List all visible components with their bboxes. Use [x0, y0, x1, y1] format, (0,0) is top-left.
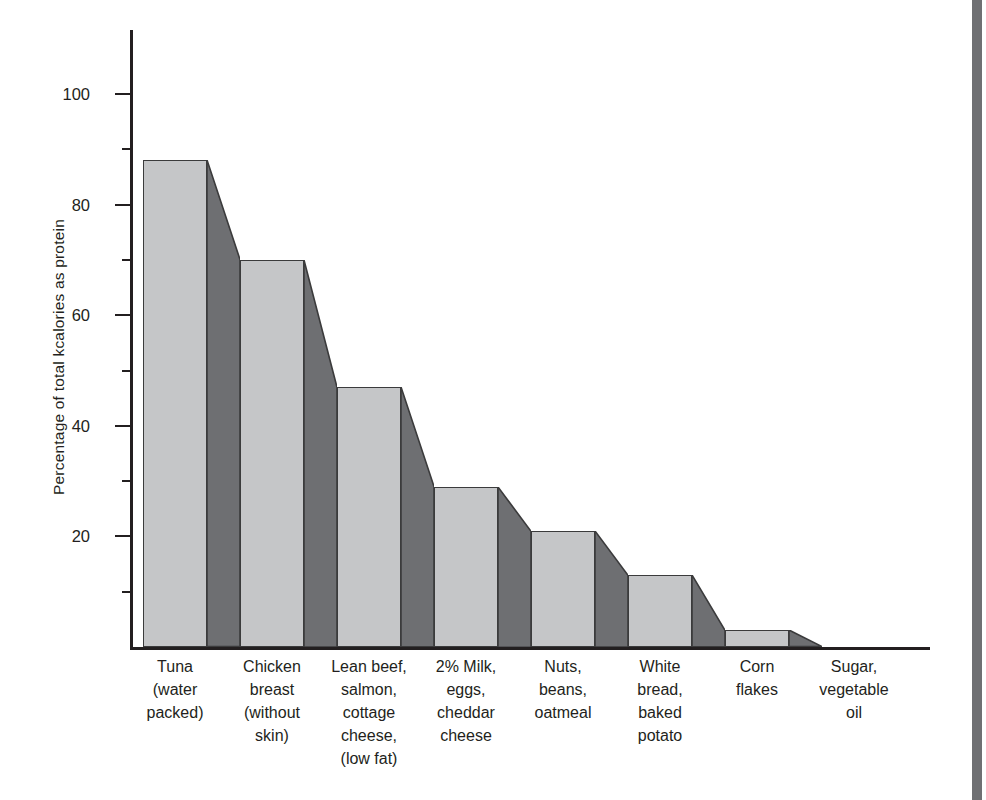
x-axis-label-line: beans,: [508, 678, 618, 701]
y-tick-label-100: 100: [62, 85, 90, 104]
x-axis-label-line: cottage: [314, 701, 424, 724]
x-axis-label-0: Tuna(waterpacked): [120, 655, 230, 724]
x-axis-label-line: Sugar,: [799, 655, 909, 678]
y-tick-major-60: 60: [115, 314, 133, 316]
bar-side-face: [595, 531, 628, 647]
y-tick-minor-30: [122, 480, 133, 482]
bar-side-face: [789, 630, 822, 647]
x-axis-label-2: Lean beef,salmon,cottagecheese,(low fat): [314, 655, 424, 770]
x-axis-label-line: cheese: [411, 724, 521, 747]
y-axis-title: Percentage of total kcalories as protein: [50, 147, 68, 567]
x-axis-label-line: White: [605, 655, 715, 678]
x-axis-label-1: Chickenbreast(withoutskin): [217, 655, 327, 747]
x-axis-label-line: Lean beef,: [314, 655, 424, 678]
x-axis-label-line: flakes: [702, 678, 812, 701]
y-axis-line: [130, 30, 133, 650]
x-axis-label-5: Whitebread,bakedpotato: [605, 655, 715, 747]
bar-front-face: [240, 260, 304, 647]
y-tick-label-40: 40: [72, 416, 90, 435]
bar-front-face: [725, 630, 789, 647]
x-axis-label-line: vegetable: [799, 678, 909, 701]
x-axis-label-line: potato: [605, 724, 715, 747]
bar-front-face: [143, 160, 207, 647]
x-axis-label-line: bread,: [605, 678, 715, 701]
page-edge-strip: [972, 0, 982, 800]
x-axis-label-line: oatmeal: [508, 701, 618, 724]
y-tick-label-80: 80: [72, 195, 90, 214]
x-axis-label-line: eggs,: [411, 678, 521, 701]
x-axis-label-4: Nuts,beans,oatmeal: [508, 655, 618, 724]
x-axis-label-line: Tuna: [120, 655, 230, 678]
bar-side-face: [498, 487, 531, 647]
bar-side-face: [401, 387, 434, 647]
bar-front-face: [434, 487, 498, 647]
y-tick-minor-70: [122, 259, 133, 261]
x-axis-label-line: skin): [217, 724, 327, 747]
bar-front-face: [628, 575, 692, 647]
chart-page: Percentage of total kcalories as protein…: [0, 0, 986, 800]
y-tick-major-20: 20: [115, 535, 133, 537]
y-tick-major-40: 40: [115, 425, 133, 427]
x-axis-label-line: (water: [120, 678, 230, 701]
x-axis-label-line: (without: [217, 701, 327, 724]
y-tick-label-60: 60: [72, 306, 90, 325]
y-tick-major-100: 100: [115, 93, 133, 95]
y-tick-label-20: 20: [72, 527, 90, 546]
bar-side-face: [304, 260, 337, 647]
y-tick-major-80: 80: [115, 204, 133, 206]
x-axis-label-line: (low fat): [314, 747, 424, 770]
bar-side-face: [692, 575, 725, 647]
x-axis-label-line: cheddar: [411, 701, 521, 724]
bar-front-face: [531, 531, 595, 647]
x-axis-label-7: Sugar,vegetableoil: [799, 655, 909, 724]
x-axis-label-line: Corn: [702, 655, 812, 678]
x-axis-line: [130, 647, 930, 650]
x-axis-label-line: cheese,: [314, 724, 424, 747]
x-axis-label-line: oil: [799, 701, 909, 724]
x-axis-label-line: 2% Milk,: [411, 655, 521, 678]
y-tick-minor-10: [122, 591, 133, 593]
x-axis-label-line: salmon,: [314, 678, 424, 701]
x-axis-label-line: breast: [217, 678, 327, 701]
x-axis-label-line: Chicken: [217, 655, 327, 678]
y-tick-minor-50: [122, 370, 133, 372]
x-axis-label-6: Cornflakes: [702, 655, 812, 701]
x-axis-label-line: Nuts,: [508, 655, 618, 678]
bar-side-face: [207, 160, 240, 647]
x-axis-label-3: 2% Milk,eggs,cheddarcheese: [411, 655, 521, 747]
x-axis-category-labels: Tuna(waterpacked)Chickenbreast(withoutsk…: [130, 655, 960, 800]
x-axis-label-line: baked: [605, 701, 715, 724]
y-tick-minor-90: [122, 148, 133, 150]
bar-front-face: [337, 387, 401, 647]
plot-area: 20406080100: [130, 30, 930, 650]
x-axis-label-line: packed): [120, 701, 230, 724]
